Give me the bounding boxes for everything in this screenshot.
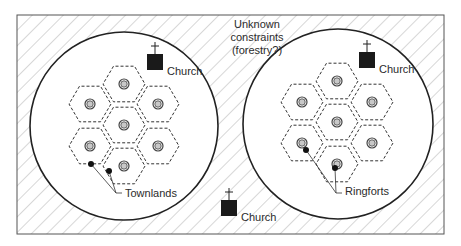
ringfort-icon xyxy=(119,79,129,89)
settlement-diagram: ChurchTownlandsChurchRingforts Unknown c… xyxy=(0,0,461,246)
ringfort-icon xyxy=(332,117,342,127)
ringfort-icon xyxy=(119,161,129,171)
ringfort-icon xyxy=(153,141,163,151)
marker-dot xyxy=(106,168,112,174)
ringfort-icon xyxy=(119,120,129,130)
unknown-constraints-line-1: Unknown xyxy=(234,18,280,30)
ringfort-icon xyxy=(297,97,307,107)
church-label: Church xyxy=(241,211,276,223)
marker-dot xyxy=(88,161,94,167)
callout-label-townlands: Townlands xyxy=(125,187,177,199)
ringfort-icon xyxy=(153,99,163,109)
ringfort-icon xyxy=(332,76,342,86)
cluster-left: ChurchTownlands xyxy=(30,32,218,220)
unknown-constraints-label: Unknown constraints (forestry?) xyxy=(222,18,292,58)
marker-dot xyxy=(332,165,338,171)
church-label: Church xyxy=(379,63,414,75)
ringfort-icon xyxy=(297,138,307,148)
ringfort-icon xyxy=(85,99,95,109)
church-icon xyxy=(147,54,163,70)
callout-label-ringforts: Ringforts xyxy=(345,185,390,197)
ringfort-icon xyxy=(367,97,377,107)
marker-dot xyxy=(303,147,309,153)
unknown-constraints-line-2: constraints xyxy=(230,31,284,43)
ringfort-icon xyxy=(367,138,377,148)
church-icon xyxy=(221,200,237,216)
church-label: Church xyxy=(167,65,202,77)
church-icon xyxy=(359,52,375,68)
ringfort-icon xyxy=(85,141,95,151)
unknown-constraints-line-3: (forestry?) xyxy=(232,44,282,56)
